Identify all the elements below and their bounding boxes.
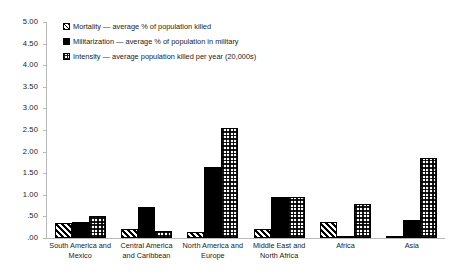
bar-militarization <box>138 207 155 238</box>
y-axis-tick-mark <box>43 65 46 66</box>
y-axis-tick-label: 1.50 <box>23 168 38 177</box>
bar-mortality <box>254 229 271 238</box>
bar-group <box>246 22 312 238</box>
bar-group-bars <box>312 22 378 238</box>
y-axis-tick-label: 3.00 <box>23 103 38 112</box>
bar-militarization <box>204 167 221 238</box>
bar-intensity <box>354 204 371 238</box>
y-axis-tick-label: 3.50 <box>23 82 38 91</box>
bar-group <box>47 22 113 238</box>
bar-group-bars <box>47 22 113 238</box>
bar-group-bars <box>246 22 312 238</box>
y-axis-tick-mark <box>43 108 46 109</box>
y-axis-tick-label: 2.00 <box>23 147 38 156</box>
bar-intensity <box>155 231 172 238</box>
y-axis-tick-mark <box>43 87 46 88</box>
y-axis-tick-label: .50 <box>27 211 38 220</box>
bar-group-container <box>47 22 445 238</box>
y-axis-tick-mark <box>43 44 46 45</box>
x-axis-category-label: Africa <box>312 241 378 260</box>
y-axis-tick-mark <box>43 216 46 217</box>
bar-chart: 5.004.504.003.503.002.502.001.501.00.50.… <box>0 0 452 276</box>
bar-intensity <box>288 197 305 238</box>
bar-mortality <box>386 236 403 238</box>
x-axis-category-label: Central America and Caribbean <box>113 241 179 260</box>
bar-militarization <box>403 220 420 238</box>
y-axis-tick-mark <box>43 238 46 239</box>
bar-militarization <box>271 197 288 238</box>
bar-group <box>312 22 378 238</box>
bar-mortality <box>121 229 138 238</box>
y-axis-tick-label: 1.00 <box>23 190 38 199</box>
x-axis-category-label: Middle East and North Africa <box>246 241 312 260</box>
bar-group-bars <box>379 22 445 238</box>
x-axis-category-label: South America and Mexico <box>47 241 113 260</box>
bar-group-bars <box>113 22 179 238</box>
bar-militarization <box>72 222 89 238</box>
y-axis-tick-mark <box>43 195 46 196</box>
x-axis-line <box>46 238 445 239</box>
x-axis-category-label: North America and Europe <box>180 241 246 260</box>
y-axis-tick-label: 4.50 <box>23 39 38 48</box>
y-axis-tick-label: .00 <box>27 233 38 242</box>
y-axis-tick-mark <box>43 152 46 153</box>
y-axis-tick-label: 2.50 <box>23 125 38 134</box>
y-axis-tick-mark <box>43 22 46 23</box>
bar-mortality <box>187 232 204 238</box>
y-axis-tick-label: 4.00 <box>23 60 38 69</box>
bar-group <box>180 22 246 238</box>
bar-militarization <box>337 236 354 238</box>
x-axis-category-label: Asia <box>379 241 445 260</box>
y-axis-tick-mark <box>43 130 46 131</box>
bar-mortality <box>320 222 337 238</box>
bar-mortality <box>55 223 72 238</box>
bar-intensity <box>420 158 437 238</box>
bar-intensity <box>89 216 106 238</box>
x-axis-category-labels: South America and MexicoCentral America … <box>47 241 445 260</box>
bar-intensity <box>221 128 238 238</box>
bar-group <box>379 22 445 238</box>
y-axis-tick-label: 5.00 <box>23 17 38 26</box>
y-axis-tick-mark <box>43 173 46 174</box>
bar-group-bars <box>180 22 246 238</box>
bar-group <box>113 22 179 238</box>
